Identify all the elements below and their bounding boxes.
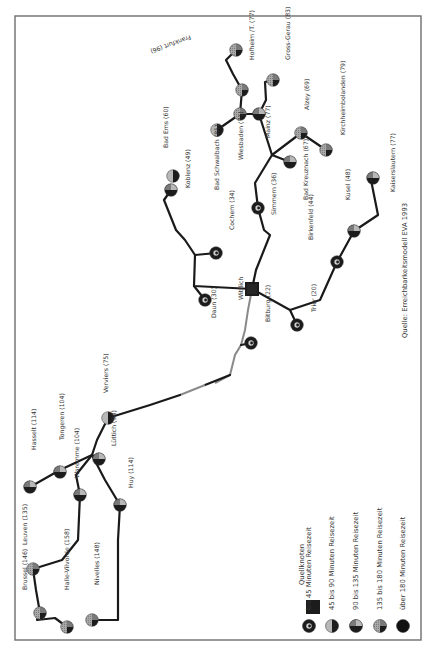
city-label: Birkenfeld (44) <box>307 194 314 240</box>
city-node <box>245 337 258 350</box>
legend-symbol <box>397 620 410 633</box>
city-node <box>367 172 380 185</box>
legend-item-label: 45 bis 90 Minuten Reisezeit <box>328 516 336 610</box>
city-node <box>291 319 304 332</box>
city-label: Mainz (77) <box>264 105 271 138</box>
legend-item-label: bis 45 Minuten Reisezeit <box>305 527 313 610</box>
travel-time-map: Frankfurt (96)Hofheim /T. (77)Gross-Gera… <box>0 0 431 653</box>
city-label: Bad Schwalbach (85) <box>213 125 220 190</box>
city-node <box>236 84 249 97</box>
city-label: Tongeren (104) <box>58 393 66 441</box>
city-node <box>167 170 180 183</box>
city-label: Bad Kreuznach (67) <box>302 139 309 200</box>
legend-symbol <box>303 620 316 633</box>
city-label: Verviers (75) <box>102 353 109 393</box>
city-label: Wiesbaden (71) <box>237 111 244 160</box>
city-label: Hasselt (114) <box>30 409 37 450</box>
city-node <box>114 499 127 512</box>
city-label: Kaiserslautern (77) <box>389 133 396 192</box>
legend-item-label: 90 bis 135 Minuten Reisezeit <box>352 512 360 610</box>
city-node <box>295 127 308 140</box>
legend-item-label: 135 bis 180 Minuten Reisezeit <box>376 507 384 610</box>
city-label: Alzey (69) <box>303 79 311 110</box>
city-label: Cochem (34) <box>228 190 235 230</box>
city-node <box>165 184 178 197</box>
city-label: Trier (20) <box>310 284 317 313</box>
legend-symbol <box>350 620 363 633</box>
city-label: Kirchheimbolanden (79) <box>339 61 346 135</box>
city-label: Huy (114) <box>127 457 135 488</box>
map-figure: Frankfurt (96)Hofheim /T. (77)Gross-Gera… <box>0 0 431 653</box>
city-node <box>230 44 243 57</box>
city-label: Frankfurt (96) <box>150 34 193 55</box>
legend-symbol <box>374 620 387 633</box>
city-node <box>93 453 106 466</box>
route-network <box>30 50 378 627</box>
city-node <box>284 156 297 169</box>
city-node <box>267 74 280 87</box>
city-label: Bitburg (22) <box>264 285 272 322</box>
city-node <box>27 563 40 576</box>
city-label: Bad Ems (60) <box>162 106 169 148</box>
city-label: Hofheim /T. (77) <box>248 10 255 60</box>
origin-node-wittlich <box>245 282 259 296</box>
city-label: Waremme (104) <box>73 428 80 478</box>
city-label: Leuven (135) <box>21 504 28 545</box>
city-label: Nivelles (148) <box>93 542 100 585</box>
city-label: Koblenz (49) <box>184 149 191 188</box>
city-label: Gross-Gerau (83) <box>284 7 291 60</box>
legend-symbol <box>326 620 339 633</box>
legend-item-label: über 180 Minuten Reisezeit <box>399 517 407 610</box>
city-node <box>74 489 87 502</box>
city-node <box>24 481 37 494</box>
city-node <box>348 225 361 238</box>
origin-label: Wittlich <box>237 277 244 300</box>
source-note: Quelle: Erreichbarkeitsmodell EVA 1993 <box>401 203 409 338</box>
city-node <box>61 621 74 634</box>
city-label: Halle-Vilvorde (158) <box>63 529 70 590</box>
city-label: Daun (30) <box>210 287 217 318</box>
city-label: Brussel (146) <box>21 549 28 590</box>
city-node <box>86 614 99 627</box>
city-node <box>331 256 344 269</box>
city-label: Simmern (36) <box>270 172 277 215</box>
city-node <box>210 247 223 260</box>
city-node <box>320 144 333 157</box>
node-layer <box>24 44 380 634</box>
city-node <box>252 202 265 215</box>
map-frame <box>15 16 421 640</box>
city-node <box>34 607 47 620</box>
city-node <box>54 466 67 479</box>
city-label: Kusel (48) <box>344 169 351 200</box>
city-label: Lüttich (94) <box>110 410 117 446</box>
